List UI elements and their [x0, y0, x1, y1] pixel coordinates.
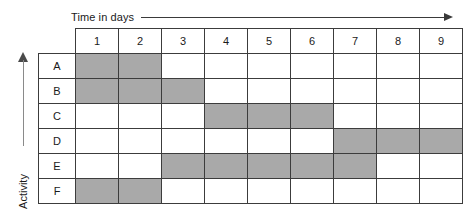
gantt-cell-filled[interactable]	[119, 78, 162, 103]
gantt-cell-filled[interactable]	[334, 128, 377, 153]
gantt-cell-filled[interactable]	[291, 103, 334, 128]
gantt-cell-empty[interactable]	[291, 53, 334, 78]
gantt-cell-empty[interactable]	[291, 78, 334, 103]
gantt-cell-empty[interactable]	[205, 128, 248, 153]
gantt-cell-empty[interactable]	[420, 78, 463, 103]
gantt-cell-empty[interactable]	[291, 178, 334, 203]
gantt-chart: Time in days Activity 1 2 3 4 5 6	[0, 0, 476, 209]
gantt-cell-filled[interactable]	[119, 178, 162, 203]
gantt-cell-filled[interactable]	[119, 53, 162, 78]
gantt-cell-empty[interactable]	[162, 178, 205, 203]
row-label-e: E	[39, 153, 76, 178]
gantt-cell-empty[interactable]	[377, 53, 420, 78]
gantt-cell-empty[interactable]	[334, 78, 377, 103]
gantt-cell-empty[interactable]	[377, 153, 420, 178]
right-arrow-icon	[141, 12, 453, 23]
gantt-row: B	[39, 78, 463, 103]
gantt-row: A	[39, 53, 463, 78]
gantt-cell-filled[interactable]	[76, 78, 119, 103]
gantt-cell-empty[interactable]	[377, 78, 420, 103]
row-label-b: B	[39, 78, 76, 103]
column-header-day: 6	[291, 29, 334, 54]
gantt-cell-empty[interactable]	[334, 178, 377, 203]
gantt-cell-filled[interactable]	[420, 128, 463, 153]
row-label-a: A	[39, 53, 76, 78]
gantt-cell-empty[interactable]	[420, 153, 463, 178]
gantt-cell-filled[interactable]	[248, 103, 291, 128]
column-header-day: 8	[377, 29, 420, 54]
gantt-cell-empty[interactable]	[76, 128, 119, 153]
gantt-cell-empty[interactable]	[377, 178, 420, 203]
header-row: 1 2 3 4 5 6 7 8 9	[39, 29, 463, 54]
gantt-cell-empty[interactable]	[420, 103, 463, 128]
gantt-cell-empty[interactable]	[119, 128, 162, 153]
time-axis-label: Time in days	[71, 12, 134, 23]
gantt-cell-empty[interactable]	[334, 53, 377, 78]
gantt-cell-empty[interactable]	[162, 128, 205, 153]
row-label-f: F	[39, 178, 76, 203]
corner-cell	[39, 29, 76, 54]
column-header-day: 5	[248, 29, 291, 54]
gantt-row: D	[39, 128, 463, 153]
gantt-cell-empty[interactable]	[162, 103, 205, 128]
gantt-cell-filled[interactable]	[205, 103, 248, 128]
row-label-c: C	[39, 103, 76, 128]
gantt-body: ABCDEF	[39, 53, 463, 203]
gantt-cell-filled[interactable]	[377, 128, 420, 153]
gantt-cell-empty[interactable]	[119, 153, 162, 178]
column-header-day: 4	[205, 29, 248, 54]
gantt-cell-empty[interactable]	[420, 53, 463, 78]
column-header-day: 9	[420, 29, 463, 54]
gantt-row: E	[39, 153, 463, 178]
gantt-cell-filled[interactable]	[162, 153, 205, 178]
gantt-cell-filled[interactable]	[248, 153, 291, 178]
gantt-cell-empty[interactable]	[248, 78, 291, 103]
gantt-header: 1 2 3 4 5 6 7 8 9	[39, 29, 463, 54]
gantt-cell-empty[interactable]	[334, 103, 377, 128]
gantt-cell-empty[interactable]	[205, 53, 248, 78]
gantt-cell-empty[interactable]	[162, 53, 205, 78]
column-header-day: 3	[162, 29, 205, 54]
gantt-row: C	[39, 103, 463, 128]
gantt-cell-empty[interactable]	[205, 78, 248, 103]
gantt-cell-empty[interactable]	[291, 128, 334, 153]
gantt-cell-filled[interactable]	[205, 153, 248, 178]
gantt-row: F	[39, 178, 463, 203]
gantt-cell-filled[interactable]	[162, 78, 205, 103]
up-arrow-icon	[18, 52, 29, 146]
gantt-cell-empty[interactable]	[377, 103, 420, 128]
gantt-cell-empty[interactable]	[76, 153, 119, 178]
gantt-cell-empty[interactable]	[205, 178, 248, 203]
row-label-d: D	[39, 128, 76, 153]
gantt-cell-empty[interactable]	[420, 178, 463, 203]
gantt-cell-empty[interactable]	[248, 178, 291, 203]
gantt-cell-filled[interactable]	[76, 178, 119, 203]
activity-axis-label: Activity	[17, 166, 30, 210]
gantt-cell-filled[interactable]	[76, 53, 119, 78]
gantt-grid-container: 1 2 3 4 5 6 7 8 9 ABCDEF	[38, 28, 463, 204]
gantt-cell-empty[interactable]	[248, 53, 291, 78]
gantt-grid: 1 2 3 4 5 6 7 8 9 ABCDEF	[38, 28, 463, 204]
column-header-day: 7	[334, 29, 377, 54]
time-axis: Time in days	[71, 7, 453, 27]
column-header-day: 1	[76, 29, 119, 54]
gantt-cell-filled[interactable]	[334, 153, 377, 178]
arrow-shaft	[141, 17, 446, 18]
activity-axis: Activity	[6, 52, 36, 198]
gantt-cell-empty[interactable]	[76, 103, 119, 128]
gantt-cell-empty[interactable]	[248, 128, 291, 153]
column-header-day: 2	[119, 29, 162, 54]
gantt-cell-filled[interactable]	[291, 153, 334, 178]
gantt-cell-empty[interactable]	[119, 103, 162, 128]
arrow-head	[444, 13, 453, 21]
arrow-shaft	[23, 60, 24, 146]
